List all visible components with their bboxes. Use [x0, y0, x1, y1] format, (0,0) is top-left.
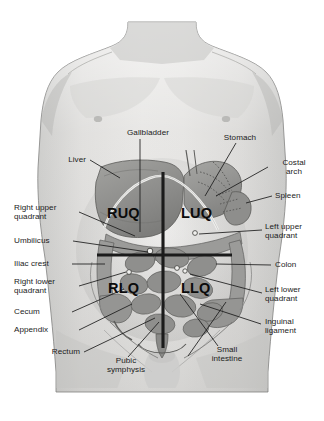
umbilicus-marker	[147, 248, 153, 254]
anatomy-marker	[222, 116, 230, 122]
label-spleen: Spleen	[275, 191, 319, 200]
label-pubic-line2: symphysis	[94, 365, 158, 374]
anatomy-marker	[127, 270, 132, 275]
label-cecum: Cecum	[14, 307, 40, 316]
anatomy-marker	[183, 269, 187, 273]
label-llq-line1: Left lower	[265, 285, 321, 294]
anatomy-marker	[175, 266, 180, 271]
label-inguinal-line2: ligament	[265, 326, 319, 335]
label-right-upper-quadrant: Right upper quadrant	[14, 203, 76, 222]
label-liver: Liver	[38, 155, 86, 164]
label-inguinal-line1: Inguinal	[265, 317, 319, 326]
quadrant-label-llq: LLQ	[181, 280, 211, 296]
label-right-lower-quadrant: Right lower quadrant	[14, 277, 76, 296]
label-left-lower-quadrant: Left lower quadrant	[265, 285, 321, 304]
label-small-intestine-line1: Small	[196, 345, 258, 354]
label-luq-line1: Left upper	[265, 222, 321, 231]
quadrant-label-luq: LUQ	[181, 205, 212, 221]
label-left-upper-quadrant: Left upper quadrant	[265, 222, 321, 241]
label-luq-line2: quadrant	[265, 231, 321, 240]
label-iliac-crest: Iliac crest	[14, 259, 49, 268]
label-costal-arch-line2: arch	[270, 167, 318, 176]
label-rlq-line2: quadrant	[14, 286, 76, 295]
label-umbilicus: Umbilicus	[14, 236, 50, 245]
label-appendix: Appendix	[14, 325, 48, 334]
label-small-intestine-line2: intestine	[196, 354, 258, 363]
label-costal-arch: Costal arch	[270, 158, 318, 177]
label-ruq-line2: quadrant	[14, 212, 76, 221]
label-colon: Colon	[275, 260, 296, 269]
label-costal-arch-line1: Costal	[270, 158, 318, 167]
label-rectum: Rectum	[24, 347, 80, 356]
label-llq-line2: quadrant	[265, 294, 321, 303]
label-ruq-line1: Right upper	[14, 203, 76, 212]
label-rlq-line1: Right lower	[14, 277, 76, 286]
anatomy-figure: Gallbladder Stomach Liver Costal arch Sp…	[0, 0, 324, 421]
label-pubic-symphysis: Pubic symphysis	[94, 356, 158, 375]
label-inguinal-ligament: Inguinal ligament	[265, 317, 319, 336]
label-gallbladder: Gallbladder	[114, 128, 182, 137]
quadrant-label-rlq: RLQ	[108, 280, 139, 296]
anatomy-marker	[193, 231, 198, 236]
label-stomach: Stomach	[212, 133, 268, 142]
anatomy-marker	[94, 116, 102, 122]
label-small-intestine: Small intestine	[196, 345, 258, 364]
quadrant-label-ruq: RUQ	[107, 205, 140, 221]
label-pubic-line1: Pubic	[94, 356, 158, 365]
